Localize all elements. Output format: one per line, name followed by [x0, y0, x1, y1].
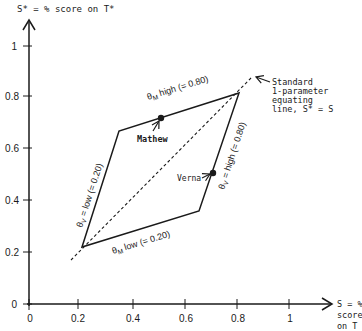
svg-text:θV = high (= 0.80): θV = high (= 0.80) — [216, 121, 248, 191]
y-tick-label: 0 — [11, 299, 17, 310]
svg-text:θM high (= 0.80): θM high (= 0.80) — [146, 74, 210, 103]
x-axis-label-line2: score — [337, 310, 362, 320]
y-tick-label: 1 — [11, 41, 17, 52]
equating-line-annotation: Standard 1-parameter equating line, S* =… — [256, 77, 333, 114]
y-tick-label: 0.4 — [5, 195, 19, 206]
x-axis: 0 0.2 0.4 0.6 0.8 1 S = % score on T — [27, 298, 362, 331]
x-tick-label: 0.8 — [231, 313, 245, 324]
verna-dot-icon — [210, 170, 216, 176]
edge-label-bottom: θM low (= 0.20) — [111, 229, 172, 257]
mathew-dot-icon — [158, 115, 164, 121]
edge-label-left: θV = low (= 0.20) — [74, 162, 105, 229]
x-axis-label-line1: S = % — [337, 299, 362, 309]
svg-text:line, S* = S: line, S* = S — [272, 104, 333, 114]
edge-label-top: θM high (= 0.80) — [146, 74, 210, 103]
x-tick-label: 0.4 — [126, 313, 140, 324]
mathew-label: Mathew — [137, 134, 169, 144]
svg-text:θV = low (= 0.20): θV = low (= 0.20) — [74, 162, 105, 229]
y-tick-label: 0.8 — [5, 91, 19, 102]
verna-label: Verna — [177, 174, 201, 183]
svg-text:θM low (= 0.20): θM low (= 0.20) — [111, 229, 172, 257]
y-tick-label: 0.6 — [5, 143, 19, 154]
point-mathew: Mathew — [137, 115, 169, 144]
x-tick-label: 1 — [287, 313, 293, 324]
edge-label-right: θV = high (= 0.80) — [216, 121, 248, 191]
x-tick-label: 0 — [27, 313, 33, 324]
x-tick-label: 0.2 — [71, 313, 85, 324]
y-axis-label: S* = % score on T* — [17, 4, 115, 14]
x-tick-label: 0.6 — [179, 313, 193, 324]
equating-diagram: S* = % score on T* 0 0.2 0.4 0.6 0.8 1 0… — [0, 0, 362, 331]
x-axis-label-line3: on T — [337, 321, 357, 331]
y-axis: S* = % score on T* 0 0.2 0.4 0.6 0.8 1 — [5, 4, 114, 310]
y-tick-label: 0.2 — [5, 247, 19, 258]
